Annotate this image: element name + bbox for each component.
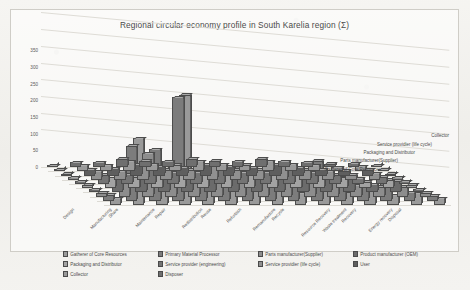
depth-axis-label: Parts manufacturer(Supplier)	[340, 158, 398, 163]
legend-item[interactable]: Collector	[63, 271, 158, 276]
legend-swatch-icon	[63, 261, 68, 266]
legend-swatch-icon	[258, 251, 263, 256]
bar-side-face	[92, 183, 94, 187]
bar	[61, 174, 73, 176]
legend-swatch-icon	[158, 261, 163, 266]
bar-side-face	[266, 158, 268, 166]
bar	[116, 159, 128, 167]
legend-label: Disposer	[165, 272, 183, 277]
legend-swatch-icon	[158, 251, 163, 256]
y-axis-tick: 350	[30, 48, 38, 53]
bar	[47, 165, 59, 167]
legend-item[interactable]: Packaging and Distributor	[63, 261, 158, 266]
depth-axis-label: Collector	[431, 133, 449, 138]
legend-label: Collector	[70, 272, 88, 277]
bar	[209, 161, 221, 168]
bar	[54, 169, 66, 171]
legend-item[interactable]: Parts manufacturer(Supplier)	[258, 251, 353, 256]
chart-title: Regional circular economy profile in Sou…	[11, 20, 458, 30]
y-axis-tick: 100	[30, 131, 38, 136]
bar	[406, 185, 418, 188]
chart-legend: Gatherer of Core ResourcesPrimary Materi…	[63, 249, 463, 279]
legend-swatch-icon	[63, 251, 68, 256]
legend-item[interactable]: User	[353, 261, 453, 266]
legend-item[interactable]: Gatherer of Core Resources	[63, 251, 158, 256]
y-axis-tick: 150	[30, 115, 38, 120]
legend-label: Service providier (life cycle)	[265, 262, 320, 267]
legend-label: Primary Material Processor	[165, 252, 219, 257]
bar-side-face	[120, 197, 122, 204]
y-axis-tick: 200	[30, 98, 38, 103]
bar	[139, 161, 151, 168]
legend-label: Service provider (engineering)	[165, 262, 225, 267]
plot-area: 050100150200250300350 DesignManufacturin…	[41, 40, 451, 205]
x-axis-label: Resource Recovery	[300, 207, 331, 238]
bar	[399, 181, 411, 184]
legend-item[interactable]: Product manufacturer (OEM)	[353, 251, 453, 256]
chart-frame: Regional circular economy profile in Sou…	[10, 9, 459, 252]
y-axis-tick: 0	[35, 165, 38, 170]
bar-side-face	[78, 175, 80, 179]
depth-axis-label: Packaging and Distributor	[363, 150, 415, 155]
x-axis-label: Manufacturing	[89, 207, 112, 230]
bar	[75, 181, 87, 184]
bar	[89, 189, 101, 192]
y-axis-tick: 250	[30, 81, 38, 86]
depth-axis-label: Service providier (life cycle)	[377, 142, 432, 147]
bar	[70, 162, 82, 167]
legend-item[interactable]: Disposer	[158, 271, 258, 276]
legend-label: Gatherer of Core Resources	[70, 252, 127, 257]
bar-side-face	[444, 197, 446, 204]
bar	[420, 193, 432, 197]
bar	[93, 162, 105, 167]
bar	[385, 174, 397, 176]
x-axis-label: Redistribution	[181, 207, 204, 230]
x-axis-label: Refurbish	[225, 207, 242, 224]
bar	[301, 162, 313, 167]
legend-item[interactable]: Service providier (life cycle)	[258, 261, 353, 266]
y-axis-tick: 50	[33, 148, 38, 153]
gridline	[41, 96, 449, 135]
gridline	[41, 46, 449, 85]
bar	[278, 161, 290, 167]
legend-swatch-icon	[353, 251, 358, 256]
gridline	[41, 79, 449, 118]
bar	[392, 177, 404, 180]
x-axis-label: Repair	[154, 207, 167, 220]
bar-side-face	[71, 170, 73, 174]
bar-side-face	[395, 170, 397, 174]
legend-swatch-icon	[353, 261, 358, 266]
gridline	[41, 63, 449, 102]
bar	[255, 159, 267, 167]
x-axis-label: Maintenance	[134, 207, 155, 228]
bar	[162, 161, 174, 167]
legend-label: Packaging and Distributor	[70, 262, 122, 267]
bar	[82, 185, 94, 188]
bar	[96, 193, 108, 197]
depth-axis-label: Gatherer of Core Resources	[324, 167, 381, 172]
gridline	[41, 12, 449, 51]
legend-swatch-icon	[63, 271, 68, 276]
legend-item[interactable]: Primary Material Processor	[158, 251, 258, 256]
legend-label: Parts manufacturer(Supplier)	[265, 252, 323, 257]
bar	[186, 159, 198, 167]
legend-item[interactable]: Service provider (engineering)	[158, 261, 258, 266]
x-axis-label: Design	[62, 207, 75, 220]
bar	[68, 177, 80, 180]
bar	[232, 161, 244, 167]
legend-label: User	[360, 262, 370, 267]
legend-label: Product manufacturer (OEM)	[360, 252, 418, 257]
legend-swatch-icon	[158, 271, 163, 276]
bar	[413, 189, 425, 192]
floor-gridline	[104, 205, 451, 206]
gridline	[41, 29, 449, 68]
legend-swatch-icon	[258, 261, 263, 266]
y-axis-tick: 300	[30, 64, 38, 69]
bar-side-face	[416, 183, 418, 187]
